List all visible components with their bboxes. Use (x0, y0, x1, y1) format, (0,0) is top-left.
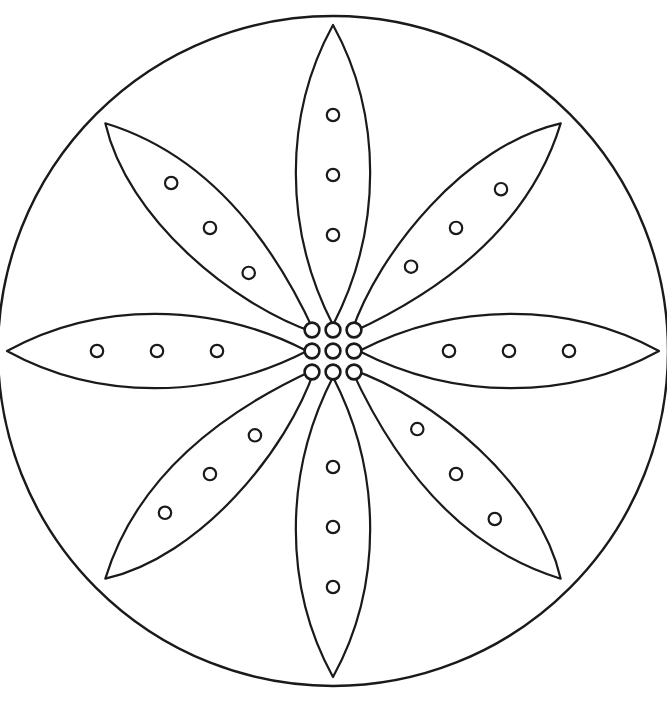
petal-nw-dot-1 (243, 267, 255, 279)
center-dot-7 (305, 365, 320, 380)
petal-se-dot-3 (489, 513, 501, 525)
petal-s-dot-1 (327, 461, 339, 473)
center-dot-5 (326, 344, 341, 359)
petal-e-dot-2 (503, 345, 515, 357)
petal-nw-dot-3 (165, 177, 177, 189)
petal-ne-dot-1 (405, 261, 417, 273)
petal-ne-dot-3 (495, 183, 507, 195)
center-dot-9 (347, 365, 362, 380)
petal-ne-dot-2 (450, 222, 462, 234)
center-dot-3 (347, 323, 362, 338)
center-dot-1 (305, 323, 320, 338)
center-dot-2 (326, 323, 341, 338)
petal-e-dot-1 (443, 345, 455, 357)
petal-w-dot-3 (91, 345, 103, 357)
petal-s-dot-3 (327, 581, 339, 593)
petal-sw-dot-3 (159, 507, 171, 519)
center-dot-6 (347, 344, 362, 359)
petal-w-dot-2 (151, 345, 163, 357)
petal-n-dot-2 (327, 169, 339, 181)
petal-w-dot-1 (211, 345, 223, 357)
petal-n-dot-3 (327, 109, 339, 121)
petal-e-dot-3 (563, 345, 575, 357)
center-dot-4 (305, 344, 320, 359)
petal-se-dot-1 (411, 423, 423, 435)
mandala-artwork (0, 0, 667, 703)
petal-sw-dot-1 (249, 429, 261, 441)
center-rosette (305, 323, 362, 380)
petal-se-dot-2 (450, 468, 462, 480)
petal-n-dot-1 (327, 229, 339, 241)
petal-s-dot-2 (327, 521, 339, 533)
petal-sw-dot-2 (204, 468, 216, 480)
center-dot-8 (326, 365, 341, 380)
petal-nw-dot-2 (204, 222, 216, 234)
